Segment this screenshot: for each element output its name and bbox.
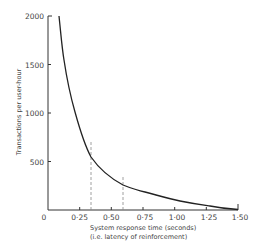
y-ticks xyxy=(48,16,52,162)
x-tick-label: 1·00 xyxy=(169,213,186,222)
x-axis-title: System response time (seconds) xyxy=(90,224,196,232)
data-curve xyxy=(59,16,238,210)
y-tick-label: 1000 xyxy=(25,109,44,118)
x-tick-label: 1·50 xyxy=(232,213,249,222)
x-tick-label: 0·75 xyxy=(137,213,154,222)
x-tick-label: 0·50 xyxy=(103,213,120,222)
chart: 2000 1500 1000 500 0 0·25 0·50 0·75 1·00… xyxy=(0,0,257,250)
x-tick-label: 0·25 xyxy=(71,213,88,222)
x-tick-label: 1·25 xyxy=(201,213,218,222)
x-axis-subtitle: (i.e. latency of reinforcement) xyxy=(90,233,187,241)
y-tick-label: 1500 xyxy=(25,61,44,70)
x-tick-label: 0 xyxy=(42,213,47,222)
y-tick-label: 2000 xyxy=(25,12,44,21)
y-tick-label: 500 xyxy=(30,158,45,167)
y-axis-title: Transactions per user-hour xyxy=(15,68,23,156)
